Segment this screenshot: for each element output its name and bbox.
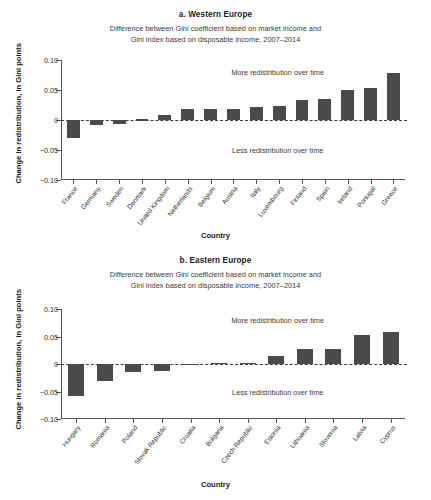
x-tick-label-romania: Romania xyxy=(89,424,111,449)
x-tick-label-greece: Greece xyxy=(380,185,399,206)
x-tick-mark xyxy=(73,180,74,184)
y-tick-label: −0.10 xyxy=(40,176,58,185)
x-tick-label-croatia: Croatia xyxy=(178,424,197,445)
bar-slot xyxy=(291,309,320,419)
panel-a-subtitle-line1: Difference between Gini coefficient base… xyxy=(0,24,431,35)
x-axis-title-a: Country xyxy=(0,231,431,240)
bar-belgium xyxy=(204,109,217,120)
x-label-slot: Netherlands xyxy=(176,185,199,231)
bar-slot xyxy=(291,60,314,180)
x-tick-slot xyxy=(119,419,148,423)
bar-slot xyxy=(62,60,85,180)
bar-italy xyxy=(250,107,263,120)
plot-area-b: 0.100.050−0.05−0.10 HungaryRomaniaPoland… xyxy=(61,309,405,419)
x-tick-label-poland: Poland xyxy=(121,424,139,445)
bar-slot xyxy=(62,309,91,419)
x-label-slot: Luxembourg xyxy=(268,185,291,231)
x-label-slot: Hungary xyxy=(62,424,91,470)
x-tick-label-lithuania: Lithuania xyxy=(288,424,310,449)
bar-slot xyxy=(148,309,177,419)
x-tick-label-group-a: FranceGermanySwedenDenmarkUnited Kingdom… xyxy=(62,185,405,231)
x-label-slot: Greece xyxy=(382,185,405,231)
bar-netherlands xyxy=(181,109,194,120)
x-label-slot: Finland xyxy=(291,185,314,231)
x-tick-mark xyxy=(279,180,280,184)
x-tick-slot xyxy=(62,419,91,423)
x-tick-slot xyxy=(336,180,359,184)
bar-greece xyxy=(387,73,400,120)
bar-slot xyxy=(131,60,154,180)
x-tick-slot xyxy=(199,180,222,184)
x-label-slot: Portugal xyxy=(359,185,382,231)
x-tick-slot xyxy=(108,180,131,184)
x-tick-mark xyxy=(362,419,363,423)
x-tick-mark xyxy=(133,419,134,423)
bar-ireland xyxy=(341,90,354,120)
x-tick-label-italy: Italy xyxy=(249,185,262,199)
panel-b-subtitle: Difference between Gini coefficient base… xyxy=(0,266,431,291)
x-tick-slot xyxy=(85,180,108,184)
bar-finland xyxy=(296,100,309,120)
bar-germany xyxy=(90,120,103,125)
panel-a-title: a. Western Europe xyxy=(0,0,431,20)
panel-b-subtitle-line1: Difference between Gini coefficient base… xyxy=(0,270,431,281)
x-tick-label-portugal: Portugal xyxy=(355,185,376,209)
y-tick-label: 0.05 xyxy=(44,86,58,95)
x-tick-label-bulgaria: Bulgaria xyxy=(204,424,224,447)
bar-slovenia xyxy=(325,349,341,364)
annotation-more-redistribution-a: More redistribution over time xyxy=(231,68,323,77)
x-label-slot: Latvia xyxy=(348,424,377,470)
panel-a-subtitle-line2: Gini index based on disposable income, 2… xyxy=(0,35,431,46)
x-tick-slot xyxy=(291,180,314,184)
x-tick-label-ireland: Ireland xyxy=(335,185,353,205)
x-tick-slot xyxy=(245,180,268,184)
x-tick-mark xyxy=(325,180,326,184)
bar-latvia xyxy=(354,335,370,364)
bar-france xyxy=(67,120,80,138)
bar-czech-republic xyxy=(240,363,256,364)
x-tick-slot xyxy=(319,419,348,423)
x-tick-label-finland: Finland xyxy=(289,185,308,206)
bar-group-b xyxy=(62,309,405,419)
x-tick-mark xyxy=(333,419,334,423)
bar-slot xyxy=(359,60,382,180)
bar-sweden xyxy=(113,120,126,124)
panel-western-europe: a. Western Europe Difference between Gin… xyxy=(0,0,431,248)
bar-lithuania xyxy=(297,349,313,364)
x-tick-slot xyxy=(348,419,377,423)
x-tick-slot xyxy=(222,180,245,184)
bar-romania xyxy=(97,364,113,381)
y-tick-label: 0.10 xyxy=(44,305,58,314)
x-label-slot: Ireland xyxy=(336,185,359,231)
x-label-slot: Lithuania xyxy=(291,424,320,470)
x-tick-mark xyxy=(76,419,77,423)
y-tick-label: 0.10 xyxy=(44,56,58,65)
bar-slot xyxy=(91,309,120,419)
y-tick-label: −0.05 xyxy=(40,387,58,396)
x-tick-slot xyxy=(376,419,405,423)
bar-slovak-republic xyxy=(154,364,170,371)
bar-spain xyxy=(318,99,331,120)
x-tick-mark xyxy=(276,419,277,423)
x-tick-slot xyxy=(91,419,120,423)
figure-container: a. Western Europe Difference between Gin… xyxy=(0,0,431,500)
y-axis-title-b: Change in redistribution, in Gini points xyxy=(14,300,23,430)
x-tick-slot xyxy=(153,180,176,184)
x-label-slot: Austria xyxy=(222,185,245,231)
x-label-slot: Romania xyxy=(91,424,120,470)
bar-denmark xyxy=(136,119,149,120)
x-label-slot: Estonia xyxy=(262,424,291,470)
bar-hungary xyxy=(68,364,84,396)
x-tick-mark xyxy=(348,180,349,184)
x-tick-slot xyxy=(262,419,291,423)
x-tick-label-sweden: Sweden xyxy=(104,185,124,208)
y-tick-label: −0.05 xyxy=(40,146,58,155)
bar-poland xyxy=(125,364,141,372)
x-label-slot: Slovak Republic xyxy=(148,424,177,470)
x-tick-label-cyprus: Cyprus xyxy=(378,424,396,445)
bar-slot xyxy=(268,60,291,180)
x-tick-mark xyxy=(165,180,166,184)
x-tick-label-slovenia: Slovenia xyxy=(318,424,339,448)
bar-slot xyxy=(119,309,148,419)
bar-cyprus xyxy=(383,332,399,364)
